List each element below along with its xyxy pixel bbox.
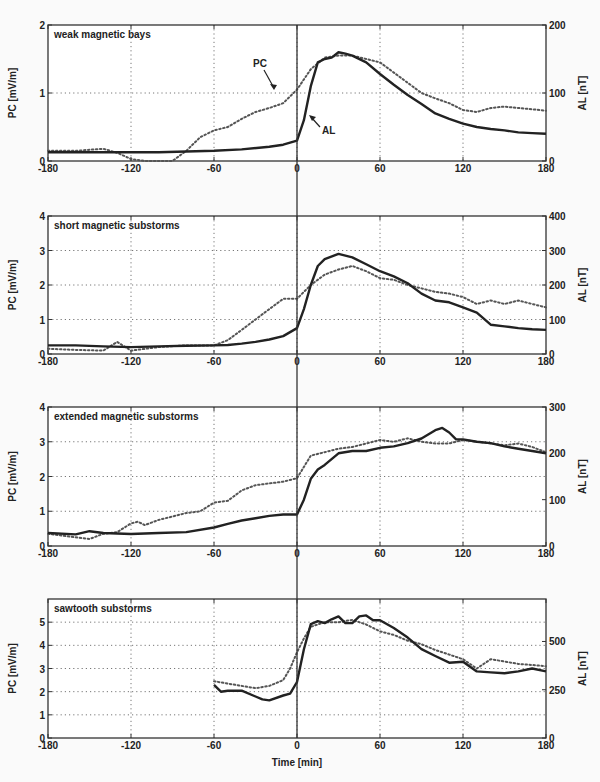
y-tick-label: 4 xyxy=(39,402,45,413)
pc-annotation: PC xyxy=(253,58,267,69)
y-tick-label: 1 xyxy=(39,315,45,326)
x-tick-label: 120 xyxy=(455,548,472,559)
y-tick-label: 3 xyxy=(39,246,45,257)
y-right-tick-label: 300 xyxy=(549,246,566,257)
y-axis-label: PC [mV/m] xyxy=(7,260,18,311)
y-tick-label: 1 xyxy=(39,710,45,721)
x-tick-label: -180 xyxy=(38,163,58,174)
x-tick-label: 180 xyxy=(538,548,555,559)
x-tick-label: -60 xyxy=(207,740,222,751)
y-tick-label: 3 xyxy=(39,437,45,448)
x-tick-label: 60 xyxy=(374,356,386,367)
x-tick-label: -180 xyxy=(38,356,58,367)
y-tick-label: 1 xyxy=(39,88,45,99)
y-axis-label: PC [mV/m] xyxy=(7,643,18,694)
y-right-axis-label: AL [nT] xyxy=(577,459,588,494)
y-right-tick-label: 300 xyxy=(549,402,566,413)
y-tick-label: 2 xyxy=(39,472,45,483)
y-right-tick-label: 100 xyxy=(549,495,566,506)
y-tick-label: 2 xyxy=(39,687,45,698)
x-axis-label: Time [min] xyxy=(272,757,322,768)
x-tick-label: 120 xyxy=(455,163,472,174)
chart-figure: 0120100200-180-120-60060120180PC [mV/m]A… xyxy=(0,0,600,782)
y-right-tick-label: 250 xyxy=(549,685,566,696)
x-tick-label: 180 xyxy=(538,740,555,751)
panel-title: weak magnetic bays xyxy=(53,29,151,40)
x-tick-label: -120 xyxy=(121,356,141,367)
x-tick-label: 180 xyxy=(538,356,555,367)
y-right-tick-label: 100 xyxy=(549,315,566,326)
x-tick-label: 60 xyxy=(374,163,386,174)
y-right-tick-label: 200 xyxy=(549,20,566,31)
y-right-tick-label: 400 xyxy=(549,211,566,222)
y-tick-label: 1 xyxy=(39,506,45,517)
y-tick-label: 2 xyxy=(39,20,45,31)
y-right-axis-label: AL [nT] xyxy=(577,268,588,303)
y-right-axis-label: AL [nT] xyxy=(577,76,588,111)
y-right-tick-label: 200 xyxy=(549,280,566,291)
y-right-axis-label: AL [nT] xyxy=(577,651,588,686)
y-tick-label: 4 xyxy=(39,211,45,222)
y-right-tick-label: 500 xyxy=(549,636,566,647)
x-tick-label: -180 xyxy=(38,548,58,559)
x-tick-label: -120 xyxy=(121,548,141,559)
x-tick-label: 180 xyxy=(538,163,555,174)
x-tick-label: -60 xyxy=(207,548,222,559)
x-tick-label: 120 xyxy=(455,356,472,367)
x-tick-label: -180 xyxy=(38,740,58,751)
y-right-tick-label: 100 xyxy=(549,88,566,99)
x-tick-label: 60 xyxy=(374,548,386,559)
y-right-tick-label: 200 xyxy=(549,448,566,459)
panel-title: extended magnetic substorms xyxy=(54,411,199,422)
y-axis-label: PC [mV/m] xyxy=(7,68,18,119)
x-tick-label: 60 xyxy=(374,740,386,751)
y-tick-label: 4 xyxy=(39,640,45,651)
y-tick-label: 5 xyxy=(39,617,45,628)
x-tick-label: -120 xyxy=(121,740,141,751)
y-tick-label: 2 xyxy=(39,280,45,291)
panel-title: sawtooth substorms xyxy=(54,603,152,614)
al-annotation: AL xyxy=(322,125,335,136)
x-tick-label: 0 xyxy=(294,740,300,751)
x-tick-label: -120 xyxy=(121,163,141,174)
panel-title: short magnetic substorms xyxy=(54,220,180,231)
x-tick-label: -60 xyxy=(207,356,222,367)
y-tick-label: 3 xyxy=(39,664,45,675)
y-axis-label: PC [mV/m] xyxy=(7,451,18,502)
x-tick-label: 120 xyxy=(455,740,472,751)
x-tick-label: -60 xyxy=(207,163,222,174)
